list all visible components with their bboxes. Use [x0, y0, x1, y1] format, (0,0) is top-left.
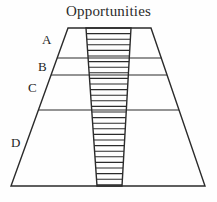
- band-label-a: A: [42, 33, 51, 46]
- band-label-d: D: [11, 136, 20, 149]
- hatch-group: [80, 34, 140, 185]
- opportunities-diagram: Opportunities ABCD: [0, 0, 217, 202]
- diagram-canvas: [0, 0, 217, 202]
- band-label-b: B: [38, 60, 47, 73]
- band-label-c: C: [28, 81, 37, 94]
